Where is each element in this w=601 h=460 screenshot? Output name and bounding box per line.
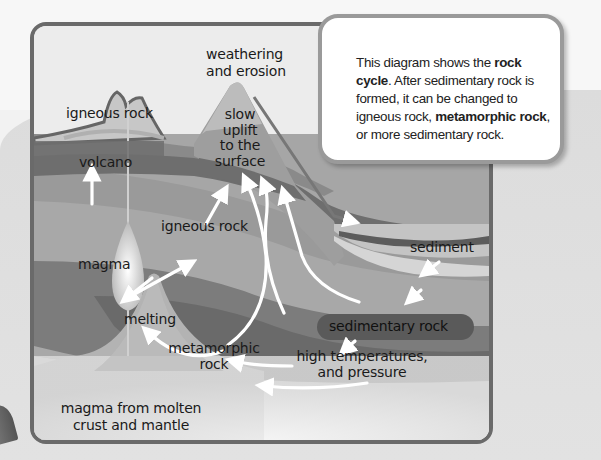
label-high-temperatures: high temperatures, [292, 348, 432, 364]
label-uplift-4: surface [210, 153, 270, 169]
label-sediment: sediment [410, 239, 474, 255]
explanation-callout: This diagram shows the rock cycle. After… [318, 14, 564, 164]
label-sedimentary-rock: sedimentary rock [329, 318, 448, 334]
label-volcano: volcano [79, 154, 132, 170]
label-magma-source-2: crust and mantle [56, 417, 206, 433]
label-magma: magma [78, 256, 130, 272]
callout-segment: This diagram shows the [356, 55, 494, 70]
label-igneous-rock-top: igneous rock [66, 105, 153, 121]
label-uplift-1: slow [210, 106, 270, 122]
label-metamorphic-2: rock [164, 356, 264, 372]
label-and-pressure: and pressure [292, 364, 432, 380]
label-uplift-3: to the [210, 137, 270, 153]
label-magma-source-1: magma from molten [56, 400, 206, 416]
label-erosion: and erosion [206, 63, 286, 79]
label-melting: melting [124, 311, 176, 327]
label-igneous-rock-mid: igneous rock [161, 218, 248, 234]
label-weathering: weathering [206, 46, 283, 62]
label-metamorphic-1: metamorphic [164, 340, 264, 356]
label-uplift-2: uplift [210, 122, 270, 138]
callout-term-metamorphic-rock: metamorphic rock [435, 109, 546, 124]
callout-text: This diagram shows the rock cycle. After… [356, 54, 556, 144]
